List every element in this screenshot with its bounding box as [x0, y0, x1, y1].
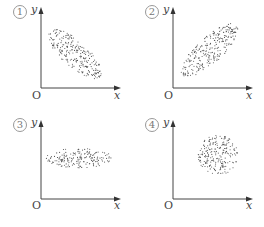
scatter-panel-2: 2 y x O: [132, 0, 264, 113]
origin-label: O: [164, 199, 173, 212]
y-axis-label: y: [31, 3, 37, 16]
scatter-panel-3: 3 y x O: [0, 113, 132, 226]
x-axis-label: x: [114, 89, 120, 102]
y-axis-label: y: [163, 3, 169, 16]
origin-label: O: [32, 199, 41, 212]
origin-label: O: [164, 89, 173, 102]
x-axis-label: x: [114, 199, 120, 212]
x-axis-label: x: [246, 199, 252, 212]
y-axis-label: y: [163, 116, 169, 129]
panel-number: 4: [145, 118, 159, 132]
origin-label: O: [32, 89, 41, 102]
scatter-panel-1: 1 y x O: [0, 0, 132, 113]
x-axis-label: x: [246, 89, 252, 102]
panel-number: 2: [145, 5, 159, 19]
y-axis-label: y: [31, 116, 37, 129]
panel-number: 3: [13, 118, 27, 132]
panel-number: 1: [13, 5, 27, 19]
scatter-panel-4: 4 y x O: [132, 113, 264, 226]
